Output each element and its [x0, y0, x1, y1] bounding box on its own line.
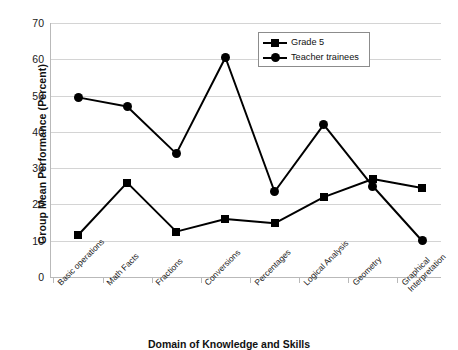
data-point-marker	[123, 179, 131, 187]
legend-entry-teacher-trainees: Teacher trainees	[263, 50, 369, 65]
legend-label-teacher-trainees: Teacher trainees	[291, 53, 359, 62]
chart-legend: Grade 5 Teacher trainees	[258, 32, 370, 67]
x-axis-title: Domain of Knowledge and Skills	[0, 338, 458, 350]
y-tick-label: 40	[0, 127, 50, 138]
legend-entry-grade-5: Grade 5	[263, 35, 369, 50]
plot-area: 010203040506070	[50, 23, 441, 278]
y-tick-label: 20	[0, 199, 50, 210]
data-point-marker	[221, 215, 229, 223]
y-tick-label: 60	[0, 54, 50, 65]
data-point-marker	[172, 228, 180, 236]
y-tick-label: 50	[0, 90, 50, 101]
data-point-marker	[74, 93, 83, 102]
data-point-marker	[271, 219, 279, 227]
legend-marker-square-icon	[263, 37, 287, 48]
data-point-marker	[123, 102, 132, 111]
x-tick-labels-group: Basic operationsMath FactsFractionsConve…	[50, 281, 458, 343]
data-point-marker	[74, 231, 82, 239]
y-tick-label: 30	[0, 163, 50, 174]
data-point-marker	[221, 53, 230, 62]
legend-marker-circle-icon	[263, 52, 287, 63]
y-tick-label: 10	[0, 235, 50, 246]
data-point-marker	[172, 149, 181, 158]
series-line	[78, 57, 422, 240]
y-tick-label: 70	[0, 18, 50, 29]
data-point-marker	[418, 184, 426, 192]
data-point-marker	[320, 193, 328, 201]
y-tick-label: 0	[0, 272, 50, 283]
legend-label-grade-5: Grade 5	[291, 38, 324, 47]
data-point-marker	[418, 236, 427, 245]
series-lines	[50, 23, 441, 278]
